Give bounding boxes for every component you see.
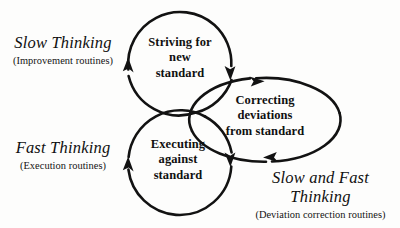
node-label-striving-line-2: new	[128, 50, 232, 65]
annotation-fast-thinking: Fast Thinking (Execution routines)	[2, 138, 124, 172]
node-label-executing-line-1: Executing	[126, 137, 230, 152]
node-label-correcting: Correcting deviations from standard	[190, 93, 340, 139]
annotation-slow-and-fast-thinking-title: Slow and Fast Thinking	[243, 168, 398, 206]
annotation-slow-and-fast-thinking-subtitle: (Deviation correction routines)	[243, 208, 398, 221]
node-label-executing-line-2: against	[126, 152, 230, 167]
annotation-slow-thinking-subtitle: (Improvement routines)	[2, 54, 124, 67]
annotation-slow-thinking-title: Slow Thinking	[2, 33, 124, 52]
node-label-executing: Executing against standard	[126, 137, 230, 183]
node-label-correcting-line-2: deviations	[190, 108, 340, 123]
annotation-fast-thinking-title: Fast Thinking	[2, 138, 124, 157]
node-label-striving-line-1: Striving for	[128, 35, 232, 50]
node-label-striving-line-3: standard	[128, 66, 232, 81]
annotation-slow-thinking: Slow Thinking (Improvement routines)	[2, 33, 124, 67]
annotation-slow-and-fast-thinking: Slow and Fast Thinking (Deviation correc…	[243, 168, 398, 221]
node-label-correcting-line-1: Correcting	[190, 93, 340, 108]
diagram-canvas: Striving for new standard Correcting dev…	[0, 0, 400, 228]
annotation-fast-thinking-subtitle: (Execution routines)	[2, 159, 124, 172]
node-label-striving: Striving for new standard	[128, 35, 232, 81]
node-label-executing-line-3: standard	[126, 168, 230, 183]
